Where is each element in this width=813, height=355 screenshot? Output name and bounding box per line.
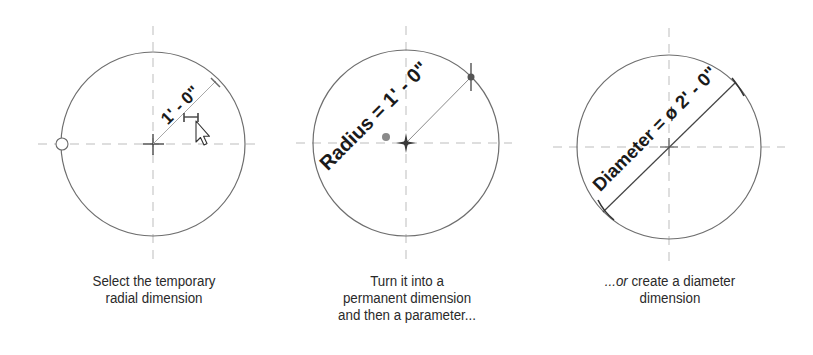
- caption-permanent: Turn it into a permanent dimension and t…: [304, 272, 510, 323]
- dimension-tick: [732, 78, 744, 96]
- endpoint-grip-icon[interactable]: [468, 63, 475, 91]
- diameter-dimension-text[interactable]: Diameter = ø 2' - 0": [588, 62, 721, 195]
- panel-permanent-dimension: Radius = 1' - 0": [296, 26, 512, 262]
- arrow-pointer-icon: [196, 121, 210, 145]
- caption-line: Turn it into a: [304, 272, 510, 289]
- circle-grip-icon[interactable]: [56, 138, 68, 150]
- text-grip-icon[interactable]: [382, 133, 390, 141]
- caption-diameter: ...or create a diameter dimension: [567, 272, 773, 306]
- panel-temporary-dimension: 1' - 0": [38, 26, 262, 262]
- panel-diameter-dimension: Diameter = ø 2' - 0": [553, 28, 785, 262]
- caption-line-rest: create a diameter: [628, 272, 735, 289]
- caption-italic-prefix: ...or: [605, 272, 628, 289]
- crosshair-icon: [143, 134, 164, 155]
- caption-line: and then a parameter...: [304, 306, 510, 323]
- caption-line: ...or create a diameter: [567, 272, 773, 289]
- radius-dimension-text[interactable]: Radius = 1' - 0": [315, 57, 432, 174]
- caption-line: dimension: [567, 289, 773, 306]
- caption-line: radial dimension: [51, 289, 257, 306]
- caption-line: permanent dimension: [304, 289, 510, 306]
- caption-line: Select the temporary: [51, 272, 257, 289]
- caption-temporary: Select the temporary radial dimension: [51, 272, 257, 306]
